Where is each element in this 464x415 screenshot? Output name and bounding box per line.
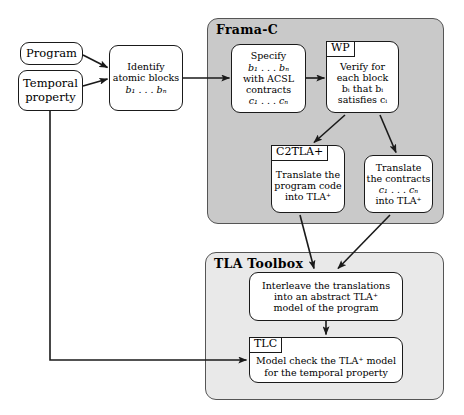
node-identify-blocks-line-0: Identify bbox=[127, 61, 164, 72]
node-tlc-model-check-line-0: Model check the TLA⁺ model bbox=[256, 355, 396, 366]
node-identify-blocks[interactable]: Identify atomic blocks b₁ . . . bₙ bbox=[109, 45, 183, 111]
node-program[interactable]: Program bbox=[20, 42, 83, 65]
node-temporal-property[interactable]: Temporal property bbox=[18, 70, 83, 111]
node-interleave-line-2: model of the program bbox=[274, 302, 379, 313]
node-wp-verify-line-0: Verify for bbox=[340, 61, 385, 72]
edge-c2tla-to-interleave bbox=[300, 215, 314, 269]
node-specify-contracts[interactable]: Specify b₁ . . . bₙ with ACSL contracts … bbox=[231, 44, 306, 113]
node-specify-contracts-line-4: c₁ . . . cₙ bbox=[249, 95, 288, 106]
workflow-diagram: Frama-C TLA Toolbox Program Temporal pro… bbox=[0, 0, 464, 415]
node-c2tla-translate-tag: C2TLA+ bbox=[271, 145, 328, 161]
edge-program-to-identify bbox=[83, 55, 108, 68]
node-translate-contracts-line-0: Translate bbox=[376, 162, 422, 173]
node-c2tla-translate-line-1: program code bbox=[274, 180, 341, 191]
node-wp-verify-line-2: bᵢ that bᵢ bbox=[342, 83, 383, 94]
node-identify-blocks-line-1: atomic blocks bbox=[113, 72, 179, 83]
node-identify-blocks-formula: b₁ . . . bₙ bbox=[126, 84, 167, 95]
node-specify-contracts-line-2: with ACSL bbox=[243, 73, 294, 84]
node-c2tla-translate-line-0: Translate the bbox=[276, 169, 340, 180]
node-wp-verify-line-1: each block bbox=[337, 72, 389, 83]
edge-wp-to-c2tla bbox=[314, 115, 345, 143]
edge-temporal-property-to-tlc bbox=[50, 111, 247, 360]
node-translate-contracts-line-3: into TLA⁺ bbox=[375, 195, 421, 206]
node-translate-contracts-line-2: c₁ . . . cₙ bbox=[379, 184, 418, 195]
node-interleave-line-1: into an abstract TLA⁺ bbox=[274, 291, 378, 302]
node-specify-contracts-line-1: b₁ . . . bₙ bbox=[248, 62, 289, 73]
node-c2tla-translate-line-2: into TLA⁺ bbox=[285, 191, 331, 202]
node-specify-contracts-line-3: contracts bbox=[246, 84, 291, 95]
edge-translate-contracts-to-interleave bbox=[338, 215, 390, 269]
node-tlc-model-check-tag: TLC bbox=[249, 337, 282, 353]
node-interleave-line-0: Interleave the translations bbox=[262, 280, 390, 291]
node-wp-verify-tag: WP bbox=[326, 41, 355, 57]
node-interleave[interactable]: Interleave the translations into an abst… bbox=[249, 272, 403, 321]
node-translate-contracts[interactable]: Translate the contracts c₁ . . . cₙ into… bbox=[364, 155, 433, 213]
node-temporal-property-line-1: property bbox=[25, 91, 76, 105]
node-wp-verify-line-3: satisfies cᵢ bbox=[338, 94, 387, 105]
node-temporal-property-line-0: Temporal bbox=[23, 77, 78, 91]
node-tlc-model-check-line-1: for the temporal property bbox=[264, 367, 388, 378]
node-program-line-0: Program bbox=[26, 47, 77, 61]
node-specify-contracts-line-0: Specify bbox=[251, 50, 286, 61]
node-translate-contracts-line-1: the contracts bbox=[367, 173, 431, 184]
edge-temporal-property-to-identify bbox=[83, 79, 108, 86]
edge-wp-to-translate-contracts bbox=[380, 115, 396, 153]
